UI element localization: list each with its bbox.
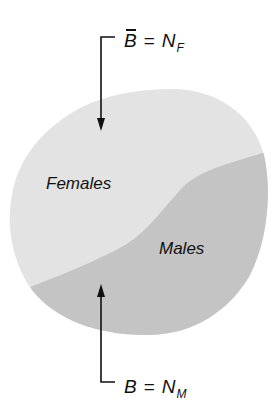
b-bar-symbol: B: [124, 31, 137, 50]
females-label: Females: [46, 175, 111, 192]
bottom-equation-label: B=NM: [124, 377, 187, 396]
n-symbol: N: [162, 30, 176, 51]
males-label: Males: [159, 240, 204, 257]
equals-operator: =: [144, 376, 155, 397]
subscript-f: F: [177, 41, 184, 55]
subscript-m: M: [177, 387, 187, 401]
equals-operator: =: [144, 30, 155, 51]
b-symbol: B: [124, 376, 137, 397]
population-diagram: [0, 0, 274, 416]
top-equation-label: B=NF: [124, 31, 184, 50]
n-symbol: N: [162, 376, 176, 397]
